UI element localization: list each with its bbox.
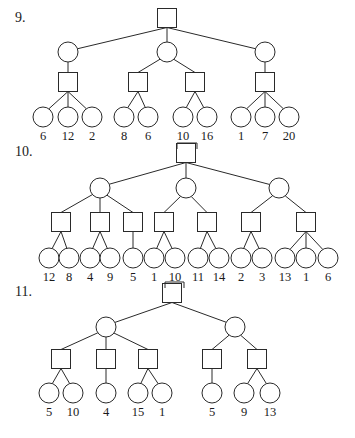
tree-edge	[115, 303, 172, 323]
tree-11-leaf-labels: 51041515913	[46, 405, 276, 419]
leaf-node-circle	[202, 383, 222, 403]
leaf-node-circle	[80, 248, 100, 268]
leaf-node-circle	[252, 248, 272, 268]
leaf-node-circle	[279, 107, 299, 127]
tree-9-nodes	[33, 9, 299, 128]
leaf-node-circle	[197, 107, 217, 127]
decision-node-square	[256, 73, 275, 92]
leaf-node-circle	[123, 248, 143, 268]
tree-10-edges	[52, 163, 323, 250]
tree-11-edges	[52, 303, 266, 384]
tree-edge	[241, 335, 257, 349]
leaf-value: 10	[177, 129, 190, 143]
tree-10-leaf-labels: 1284951101114231316	[43, 270, 331, 284]
decision-node-square	[129, 73, 148, 92]
decision-node-square	[248, 350, 267, 369]
leaf-node-circle	[144, 248, 164, 268]
tree-edge	[61, 195, 92, 213]
tree-edge	[49, 92, 68, 109]
decision-node-square	[297, 213, 316, 232]
tree-edge	[167, 28, 256, 49]
leaf-node-circle	[82, 107, 102, 127]
tree-edge	[52, 369, 61, 384]
tree-9-leaf-labels: 61228610161720	[40, 129, 295, 143]
leaf-value: 7	[262, 129, 268, 143]
leaf-value: 15	[132, 405, 145, 419]
chance-node-circle	[269, 178, 289, 198]
tree-edge	[257, 369, 266, 384]
tree-number-11: 11.	[15, 284, 32, 299]
leaf-value: 13	[279, 270, 292, 284]
decision-node-square	[155, 213, 174, 232]
tree-edge	[191, 197, 207, 213]
tree-edge	[107, 195, 133, 212]
leaf-value: 3	[259, 270, 265, 284]
tree-edge	[61, 333, 98, 350]
decision-node-square	[158, 9, 177, 28]
tree-edge	[172, 303, 226, 323]
tree-edge	[141, 369, 148, 384]
leaf-value: 8	[121, 129, 127, 143]
tree-edge	[164, 196, 181, 212]
tree-edge	[174, 59, 195, 72]
leaf-node-circle	[296, 248, 316, 268]
tree-edge	[138, 59, 160, 72]
tree-edge	[77, 28, 167, 49]
leaf-value: 8	[66, 270, 72, 284]
leaf-node-circle	[152, 383, 172, 403]
chance-node-circle	[157, 42, 177, 62]
tree-edge	[109, 163, 186, 185]
leaf-value: 4	[87, 270, 94, 284]
decision-node-square	[52, 213, 71, 232]
tree-9: 9. 61228610161720	[15, 9, 299, 144]
leaf-value: 16	[201, 129, 214, 143]
leaf-node-circle	[33, 107, 53, 127]
decision-node-square	[124, 213, 143, 232]
tree-edge	[148, 369, 158, 384]
leaf-node-circle	[231, 107, 251, 127]
leaf-value: 1	[238, 129, 244, 143]
leaf-value: 6	[40, 129, 46, 143]
tree-edge	[114, 333, 148, 349]
leaf-node-circle	[128, 383, 148, 403]
tree-edge	[61, 232, 67, 249]
leaf-value: 4	[103, 405, 110, 419]
leaf-node-circle	[188, 248, 208, 268]
leaf-value: 20	[283, 129, 296, 143]
chance-node-circle	[90, 178, 110, 198]
leaf-value: 9	[241, 405, 247, 419]
tree-edge	[247, 92, 265, 109]
leaf-node-circle	[59, 248, 79, 268]
leaf-node-circle	[260, 383, 280, 403]
leaf-node-circle	[138, 107, 158, 127]
leaf-node-circle	[209, 248, 229, 268]
tree-number-10: 10.	[15, 144, 33, 159]
chance-node-circle	[255, 42, 275, 62]
tree-edge	[251, 196, 273, 213]
tree-edge	[244, 232, 251, 249]
decision-node-square	[198, 213, 217, 232]
tree-edge	[306, 232, 323, 250]
leaf-value: 12	[62, 129, 75, 143]
tree-edge	[128, 92, 138, 108]
leaf-value: 10	[67, 405, 80, 419]
leaf-value: 5	[46, 405, 52, 419]
leaf-value: 5	[130, 270, 136, 284]
leaf-node-circle	[318, 248, 338, 268]
leaf-value: 5	[209, 405, 215, 419]
tree-9-edges	[49, 28, 284, 109]
chance-node-circle	[58, 42, 78, 62]
decision-node-square	[91, 213, 110, 232]
leaf-value: 2	[238, 270, 244, 284]
tree-10: 10. 1284951101114231316	[15, 144, 338, 285]
tree-edge	[61, 369, 70, 384]
chance-node-circle	[176, 178, 196, 198]
leaf-node-circle	[96, 383, 116, 403]
leaf-node-circle	[39, 248, 59, 268]
tree-edge	[212, 335, 229, 349]
leaf-node-circle	[275, 248, 295, 268]
chance-node-circle	[225, 317, 245, 337]
leaf-node-circle	[173, 107, 193, 127]
tree-edge	[164, 232, 172, 249]
leaf-node-circle	[39, 383, 59, 403]
